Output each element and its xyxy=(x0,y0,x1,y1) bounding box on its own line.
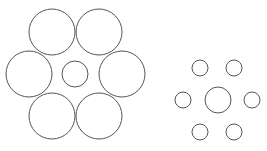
right-figure xyxy=(175,60,260,140)
surround-circle xyxy=(76,93,122,139)
surround-circle xyxy=(192,124,208,140)
surround-circle xyxy=(226,60,242,76)
surround-circle xyxy=(99,51,145,97)
center-circle xyxy=(205,87,231,113)
surround-circle xyxy=(29,9,75,55)
surround-circle xyxy=(192,60,208,76)
surround-circle xyxy=(244,92,260,108)
surround-circle xyxy=(76,9,122,55)
left-figure xyxy=(6,9,145,139)
surround-circle xyxy=(29,93,75,139)
surround-circle xyxy=(175,92,191,108)
illusion-diagram xyxy=(0,0,267,151)
surround-circle xyxy=(226,124,242,140)
center-circle xyxy=(62,61,88,87)
surround-circle xyxy=(6,51,52,97)
